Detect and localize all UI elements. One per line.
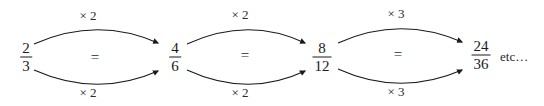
op-bottom-2: × 2 bbox=[231, 85, 248, 101]
arrow-top-2 bbox=[187, 30, 305, 44]
fraction-24-36: 24 36 bbox=[472, 39, 491, 72]
fraction-denominator: 12 bbox=[313, 57, 332, 74]
fraction-denominator: 6 bbox=[169, 57, 181, 74]
op-bottom-3: × 3 bbox=[387, 84, 404, 100]
fraction-denominator: 3 bbox=[20, 57, 32, 74]
arrow-bottom-1 bbox=[34, 70, 158, 84]
arrow-top-1 bbox=[34, 30, 158, 44]
fraction-8-12: 8 12 bbox=[313, 41, 332, 74]
fraction-denominator: 36 bbox=[472, 55, 491, 72]
fraction-numerator: 24 bbox=[472, 39, 491, 55]
arrow-bottom-3 bbox=[338, 69, 462, 83]
etc-label: etc… bbox=[500, 49, 528, 65]
op-bottom-1: × 2 bbox=[79, 85, 96, 101]
equals-sign-3: = bbox=[394, 46, 402, 63]
equals-sign-2: = bbox=[241, 47, 249, 64]
arrow-bottom-2 bbox=[187, 70, 305, 84]
fraction-numerator: 4 bbox=[169, 41, 181, 57]
equivalent-fractions-diagram: 2 3 4 6 8 12 24 36 = = = × 2 × 2 × 2 × 2… bbox=[0, 0, 544, 106]
op-top-2: × 2 bbox=[231, 7, 248, 23]
fraction-4-6: 4 6 bbox=[169, 41, 181, 74]
fraction-numerator: 2 bbox=[20, 41, 32, 57]
fraction-2-3: 2 3 bbox=[20, 41, 32, 74]
op-top-3: × 3 bbox=[387, 6, 404, 22]
op-top-1: × 2 bbox=[79, 8, 96, 24]
fraction-numerator: 8 bbox=[313, 41, 332, 57]
arrow-top-3 bbox=[338, 29, 462, 43]
equals-sign-1: = bbox=[91, 49, 99, 66]
